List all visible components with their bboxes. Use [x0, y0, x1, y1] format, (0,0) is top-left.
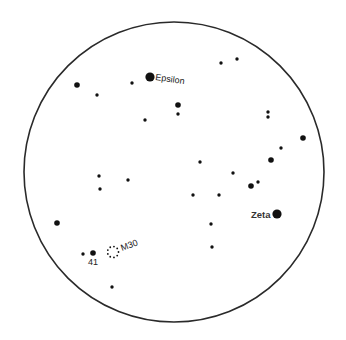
star [110, 285, 113, 288]
star [231, 171, 234, 174]
star [198, 160, 201, 163]
dso-label-m30: M30 [119, 237, 139, 252]
star [130, 81, 133, 84]
star [191, 193, 194, 196]
star [97, 174, 100, 177]
star [175, 102, 181, 108]
star [126, 178, 129, 181]
cluster-dot [107, 249, 109, 251]
star [209, 222, 212, 225]
star-label-zeta: Zeta [251, 209, 271, 220]
cluster-dot [107, 253, 109, 255]
star [143, 118, 146, 121]
stars-layer [54, 57, 306, 288]
star [54, 220, 60, 226]
star [300, 135, 306, 141]
deep-sky-layer [107, 246, 119, 259]
star [266, 110, 269, 113]
star [210, 245, 213, 248]
star [268, 157, 274, 163]
cluster-dot [118, 251, 120, 253]
star [176, 112, 179, 115]
star [256, 180, 259, 183]
cluster-dot [109, 256, 111, 258]
cluster-dot [109, 246, 111, 248]
star-zeta [272, 209, 281, 218]
cluster-dot [113, 257, 115, 259]
star [98, 187, 101, 190]
star-41 [90, 250, 96, 256]
cluster-m30-symbol [107, 246, 119, 259]
star [74, 82, 80, 88]
labels-layer: Epsilon Zeta 41 M30 [88, 72, 271, 267]
star [266, 115, 269, 118]
star [81, 252, 84, 255]
star [279, 146, 282, 149]
cluster-dot [113, 246, 115, 248]
star [217, 193, 220, 196]
star-label-epsilon: Epsilon [155, 72, 186, 86]
star-chart: Epsilon Zeta 41 M30 [0, 0, 346, 340]
star [248, 183, 254, 189]
star [235, 57, 238, 60]
star-label-41: 41 [88, 257, 98, 267]
star [219, 61, 222, 64]
field-of-view-circle [24, 22, 324, 322]
star-epsilon [145, 72, 154, 81]
cluster-dot [116, 255, 118, 257]
cluster-dot [116, 248, 118, 250]
star [95, 93, 98, 96]
